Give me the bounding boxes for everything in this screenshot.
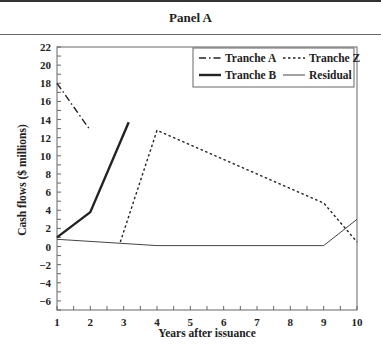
series-tranche-z: [120, 130, 357, 242]
y-tick-label: 2: [46, 222, 52, 234]
y-tick-label: 14: [40, 114, 52, 126]
y-axis-label: Cash flows ($ millions): [16, 124, 29, 236]
series-lines: [57, 83, 357, 245]
legend-label: Residual: [309, 69, 352, 81]
x-tick-label: 1: [54, 316, 60, 328]
y-tick-label: 12: [40, 132, 52, 144]
y-tick-label: 10: [40, 150, 52, 162]
y-tick-label: −4: [39, 277, 51, 289]
y-tick-label: 22: [40, 41, 52, 53]
y-tick-label: 8: [46, 168, 52, 180]
x-tick-label: 2: [88, 316, 94, 328]
series-tranche-b: [57, 122, 129, 237]
x-axis-label: Years after issuance: [158, 327, 256, 339]
y-tick-label: 6: [46, 186, 52, 198]
legend-label: Tranche Z: [309, 52, 361, 64]
line-chart: 2220181614121086420−2−4−612345678910 Tra…: [0, 0, 381, 359]
y-tick-label: 16: [40, 95, 52, 107]
legend-label: Tranche A: [225, 52, 277, 64]
x-tick-label: 9: [321, 316, 327, 328]
y-tick-label: −6: [39, 295, 51, 307]
x-tick-label: 3: [121, 316, 127, 328]
legend: Tranche ATranche ZTranche BResidual: [193, 48, 361, 87]
y-tick-label: 0: [46, 241, 52, 253]
series-residual: [57, 219, 357, 245]
x-tick-label: 8: [288, 316, 294, 328]
y-tick-label: 4: [46, 204, 52, 216]
y-tick-label: 20: [40, 59, 52, 71]
series-tranche-a: [57, 83, 90, 130]
y-tick-label: −2: [39, 259, 51, 271]
legend-label: Tranche B: [225, 69, 277, 81]
x-tick-label: 10: [352, 316, 364, 328]
y-tick-label: 18: [40, 77, 52, 89]
